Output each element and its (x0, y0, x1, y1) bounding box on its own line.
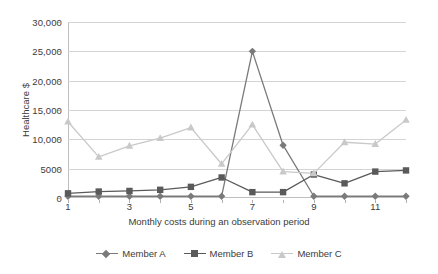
data-point-marker (249, 121, 257, 128)
data-point-marker (187, 193, 194, 200)
y-axis-tick-mark (58, 22, 62, 23)
x-axis-tick-mark (160, 200, 161, 203)
data-point-marker (279, 142, 286, 149)
data-point-marker (341, 193, 348, 200)
line-chart: Healthcare $ 0500010,00015,00020,00025,0… (0, 0, 438, 274)
data-point-marker (310, 193, 317, 200)
y-axis-tick-mark (58, 51, 62, 52)
legend-swatch (96, 249, 118, 259)
legend-swatch (271, 249, 293, 259)
triangle-marker-icon (278, 251, 286, 258)
x-axis-tick-mark (99, 200, 100, 203)
chart-legend: Member AMember BMember C (0, 248, 438, 259)
data-point-marker (187, 124, 195, 131)
y-axis-tick-mark (58, 198, 62, 199)
data-point-marker (372, 193, 379, 200)
data-point-marker (280, 189, 286, 195)
x-axis-tick-labels: 1357911 (68, 200, 406, 216)
x-axis-tick-label: 3 (127, 201, 132, 212)
data-point-marker (372, 168, 378, 174)
legend-swatch (184, 249, 206, 259)
y-axis-tick-mark (58, 139, 62, 140)
data-point-marker (249, 189, 255, 195)
x-axis-tick-label: 9 (311, 201, 316, 212)
legend-label: Member B (210, 248, 254, 259)
x-axis-tick-mark (283, 200, 284, 203)
series-line (68, 170, 406, 193)
data-point-marker (341, 180, 347, 186)
data-point-marker (157, 193, 164, 200)
x-axis-tick-mark (345, 200, 346, 203)
y-axis-tick-mark (58, 81, 62, 82)
data-point-marker (65, 190, 71, 196)
data-point-marker (96, 188, 102, 194)
data-point-marker (341, 138, 349, 145)
x-axis-tick-mark (406, 200, 407, 203)
y-axis-tick-mark (58, 110, 62, 111)
data-point-marker (157, 187, 163, 193)
plot-area (68, 22, 406, 198)
data-point-marker (249, 48, 256, 55)
data-point-marker (402, 193, 409, 200)
data-point-marker (218, 193, 225, 200)
legend-item-member-a[interactable]: Member A (96, 248, 165, 259)
data-point-marker (188, 184, 194, 190)
square-marker-icon (191, 250, 198, 257)
legend-label: Member A (122, 248, 165, 259)
data-point-marker (402, 116, 410, 123)
series-member-b (65, 167, 409, 196)
legend-item-member-b[interactable]: Member B (184, 248, 254, 259)
x-axis-tick-mark (222, 200, 223, 203)
series-member-a (64, 48, 409, 200)
y-axis-tick-mark (58, 169, 62, 170)
legend-label: Member C (297, 248, 341, 259)
data-point-marker (64, 118, 72, 125)
data-point-marker (126, 188, 132, 194)
y-axis-tick-labels: 0500010,00015,00020,00025,00030,000 (0, 22, 62, 198)
series-line (68, 51, 406, 196)
legend-item-member-c[interactable]: Member C (271, 248, 341, 259)
diamond-marker-icon (102, 249, 110, 257)
x-axis-tick-label: 1 (65, 201, 70, 212)
x-axis-tick-label: 11 (370, 201, 380, 212)
data-point-marker (218, 174, 224, 180)
series-line (68, 120, 406, 173)
x-axis-title: Monthly costs during an observation peri… (0, 216, 438, 227)
data-point-marker (403, 167, 409, 173)
x-axis-tick-label: 5 (188, 201, 193, 212)
x-axis-tick-label: 7 (250, 201, 255, 212)
series-layer (68, 22, 406, 198)
